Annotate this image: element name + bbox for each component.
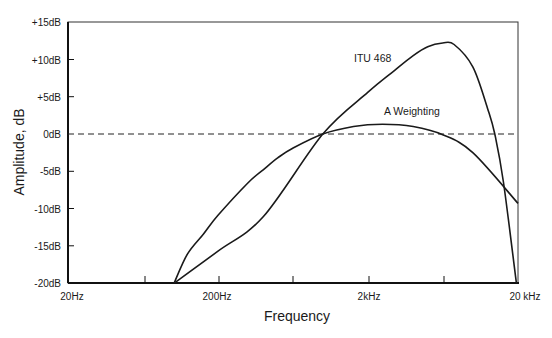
x-tick-label: 200Hz xyxy=(203,291,232,302)
itu-468-label: ITU 468 xyxy=(354,52,392,64)
y-tick-label: +15dB xyxy=(32,17,62,28)
x-axis-title: Frequency xyxy=(264,308,330,324)
x-tick-label: 2kHz xyxy=(358,291,381,302)
x-ticks xyxy=(145,276,444,283)
itu-468-curve xyxy=(174,42,516,283)
plot-frame xyxy=(68,22,518,283)
y-tick-labels: +15dB +10dB +5dB 0dB -5dB -10dB -15dB -2… xyxy=(32,17,62,289)
chart: +15dB +10dB +5dB 0dB -5dB -10dB -15dB -2… xyxy=(0,0,552,338)
y-tick-label: -5dB xyxy=(40,166,61,177)
y-tick-label: +10dB xyxy=(32,55,62,66)
y-axis-title: Amplitude, dB xyxy=(11,108,27,195)
y-tick-label: +5dB xyxy=(37,92,61,103)
x-tick-labels: 20Hz 200Hz 2kHz 20 kHz xyxy=(60,291,540,302)
y-tick-label: -15dB xyxy=(34,241,61,252)
x-tick-label: 20Hz xyxy=(60,291,83,302)
a-weighting-label: A Weighting xyxy=(384,105,440,117)
y-tick-label: -20dB xyxy=(34,278,61,289)
y-tick-label: 0dB xyxy=(43,129,61,140)
y-tick-label: -10dB xyxy=(34,204,61,215)
x-tick-label: 20 kHz xyxy=(509,291,540,302)
a-weighting-curve xyxy=(174,124,518,283)
